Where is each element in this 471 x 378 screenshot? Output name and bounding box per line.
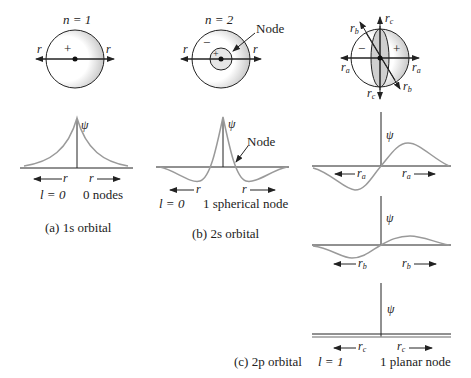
rb-label-top: rb [350,21,359,36]
psi-label-c: ψ [387,302,395,316]
ra-label-left: ra [341,60,350,75]
r-label-right: r [253,42,258,56]
nucleus-dot [73,57,78,62]
panel-2s: n = 2 r r − + Node ψ Node r r l = 0 1 sp… [156,12,289,241]
ra-axis-right: ra [402,166,411,181]
caption-1s: (a) 1s orbital [45,220,112,235]
node-count-2s: 1 spherical node [203,196,288,211]
l-value-2p: l = 1 [318,354,343,369]
caption-2s: (b) 2s orbital [192,226,260,241]
psi-label-a: ψ [386,128,394,142]
l-value-1s: l = 0 [40,187,66,202]
r-axis-left: r [63,171,68,185]
graph-node-label: Node [247,134,275,149]
node-count-2p: 1 planar node [380,354,451,369]
ra-axis-left: ra [357,166,366,181]
psi-label: ψ [228,117,236,131]
orbital-figure: n = 1 r r + ψ r r l = 0 0 nodes (a) 1s o… [0,0,471,378]
rb-axis-right: rb [402,256,411,271]
plus-sign: + [213,48,219,59]
psi-label: ψ [81,118,89,132]
rc-axis-left: rc [358,339,367,354]
plus-sign: + [393,41,400,56]
l-value-2s: l = 0 [159,196,185,211]
nucleus-dot [378,56,383,61]
psi-label-b: ψ [386,211,394,225]
node-count-1s: 0 nodes [83,187,123,202]
plus-sign: + [64,41,71,56]
minus-sign: − [358,41,365,56]
r-axis-right: r [242,182,247,196]
r-label-left: r [37,42,42,56]
r-label-right: r [106,42,111,56]
minus-sign: − [203,35,210,50]
r-axis-left: r [196,182,201,196]
rc-label-bottom: rc [367,86,376,101]
psi-curve-1s [24,118,128,166]
caption-2p: (c) 2p orbital [234,354,302,369]
ra-label-right: ra [412,60,421,75]
n-label-1s: n = 1 [63,12,91,27]
panel-1s: n = 1 r r + ψ r r l = 0 0 nodes (a) 1s o… [20,12,133,235]
n-label-2s: n = 2 [205,12,234,27]
rb-label-bottom: rb [403,79,412,94]
node-callout-label: Node [256,21,284,36]
rc-label-top: rc [385,11,394,26]
r-axis-right: r [89,171,94,185]
rb-axis-left: rb [358,256,367,271]
rc-axis-right: rc [397,339,406,354]
r-label-left: r [183,42,188,56]
nucleus-dot [219,57,224,62]
